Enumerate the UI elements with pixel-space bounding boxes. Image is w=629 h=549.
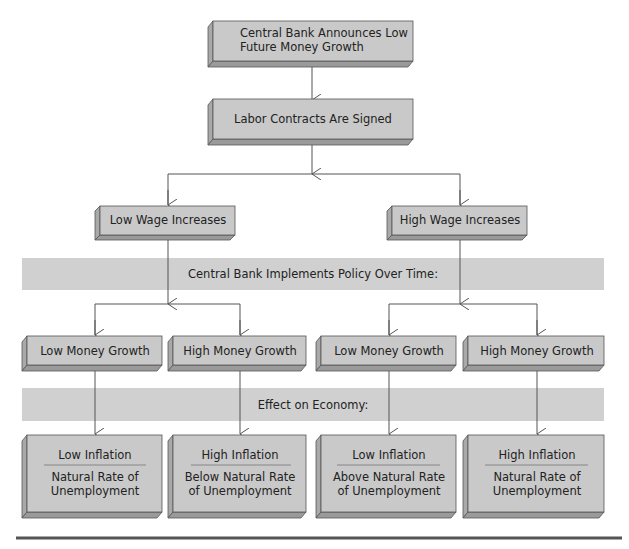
- money-box-1: Low Money Growth: [22, 336, 162, 371]
- outcome-unemp-3a: Above Natural Rate: [333, 470, 445, 484]
- outcome-box-4: High Inflation Natural Rate of Unemploym…: [463, 435, 604, 518]
- contracts-box: Labor Contracts Are Signed: [208, 99, 413, 145]
- outcome-inflation-1: Low Inflation: [58, 448, 131, 462]
- outcome-box-3: Low Inflation Above Natural Rate of Unem…: [316, 435, 456, 518]
- outcome-box-2: High Inflation Below Natural Rate of Une…: [168, 435, 306, 518]
- flow-diagram: Central Bank Implements Policy Over Time…: [0, 0, 629, 549]
- outcome-unemp-4a: Natural Rate of: [493, 470, 581, 484]
- outcome-inflation-2: High Inflation: [201, 448, 278, 462]
- money-label-4: High Money Growth: [480, 344, 594, 358]
- outcome-inflation-4: High Inflation: [498, 448, 575, 462]
- money-label-3: Low Money Growth: [334, 344, 444, 358]
- outcome-unemp-2b: of Unemployment: [188, 484, 292, 498]
- outcome-inflation-3: Low Inflation: [352, 448, 425, 462]
- announcement-box: Central Bank Announces Low Future Money …: [208, 21, 413, 67]
- announcement-line-1: Central Bank Announces Low: [240, 26, 408, 40]
- money-box-4: High Money Growth: [463, 336, 604, 371]
- money-box-3: Low Money Growth: [316, 336, 456, 371]
- outcome-unemp-2a: Below Natural Rate: [185, 470, 296, 484]
- money-label-1: Low Money Growth: [40, 344, 150, 358]
- low-wage-box: Low Wage Increases: [95, 206, 235, 240]
- outcome-box-1: Low Inflation Natural Rate of Unemployme…: [22, 435, 162, 518]
- high-wage-label: High Wage Increases: [400, 213, 520, 227]
- money-label-2: High Money Growth: [183, 344, 297, 358]
- contracts-label: Labor Contracts Are Signed: [234, 112, 392, 126]
- high-wage-split: [389, 304, 537, 335]
- high-wage-box: High Wage Increases: [387, 206, 527, 240]
- effect-band-label: Effect on Economy:: [258, 398, 369, 412]
- outcome-unemp-4b: Unemployment: [493, 484, 582, 498]
- money-box-2: High Money Growth: [168, 336, 306, 371]
- outcome-unemp-1a: Natural Rate of: [51, 470, 139, 484]
- outcome-unemp-3b: of Unemployment: [337, 484, 441, 498]
- low-wage-label: Low Wage Increases: [110, 213, 227, 227]
- wage-split-connector: [168, 174, 460, 205]
- outcome-unemp-1b: Unemployment: [51, 484, 140, 498]
- announcement-line-2: Future Money Growth: [240, 40, 364, 54]
- low-wage-split: [95, 304, 240, 335]
- policy-band-label: Central Bank Implements Policy Over Time…: [188, 267, 438, 281]
